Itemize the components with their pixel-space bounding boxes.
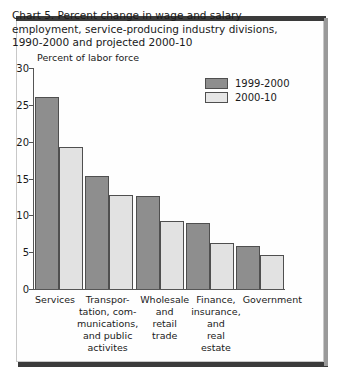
- bar: [160, 221, 184, 289]
- plot-area: 302520151050: [33, 68, 285, 290]
- frame-right-shadow: [324, 18, 328, 366]
- y-axis-label: Percent of labor force: [37, 52, 139, 63]
- x-axis-category-labels: ServicesTranspor- tation, com- municatio…: [34, 294, 285, 354]
- category-label: Government: [242, 294, 303, 306]
- y-tick-label: 30: [16, 63, 29, 74]
- y-tick: 0: [33, 289, 38, 290]
- y-tick-mark: [29, 289, 34, 290]
- y-tick-label: 15: [16, 173, 29, 184]
- category-label: Services: [34, 294, 76, 306]
- frame-bottom-shadow: [18, 362, 328, 367]
- bar-group: [84, 68, 134, 289]
- y-tick-label: 5: [23, 247, 29, 258]
- bar: [59, 147, 83, 289]
- category-label: Transpor- tation, com- munications, and …: [76, 294, 139, 354]
- y-tick-label: 20: [16, 136, 29, 147]
- bar: [186, 223, 210, 289]
- x-axis-line: [33, 289, 285, 290]
- bar: [210, 243, 234, 289]
- y-tick-label: 10: [16, 210, 29, 221]
- bar: [85, 176, 109, 289]
- bar-group: [185, 68, 235, 289]
- bar-series-container: [34, 68, 285, 289]
- bar-group: [34, 68, 84, 289]
- category-label: Wholesale and retail trade: [139, 294, 190, 342]
- category-label: Finance, insurance, and real estate: [190, 294, 241, 354]
- bar-group: [235, 68, 285, 289]
- chart-title: Chart 5. Percent change in wage and sala…: [12, 9, 298, 50]
- bar-group: [134, 68, 184, 289]
- bar: [109, 195, 133, 289]
- bar: [260, 255, 284, 289]
- y-tick-label: 0: [23, 284, 29, 295]
- bar: [35, 97, 59, 289]
- bar: [136, 196, 160, 289]
- chart-figure: Chart 5. Percent change in wage and sala…: [0, 0, 342, 388]
- bar: [236, 246, 260, 289]
- y-tick-label: 25: [16, 99, 29, 110]
